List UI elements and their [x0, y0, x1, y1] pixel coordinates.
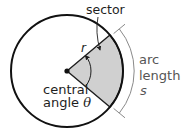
sector-label: sector: [86, 2, 126, 17]
sector-arc-length-diagram: sector r central angle θ arc length s: [0, 0, 186, 132]
arc-bracket-tick-bottom: [114, 108, 125, 117]
arc-length-label-line1: arc: [139, 52, 159, 67]
theta-symbol: θ: [83, 95, 91, 110]
central-angle-label-line2: angle θ: [43, 95, 91, 110]
arc-bracket-tick-top: [114, 24, 125, 33]
center-point: [64, 68, 69, 73]
angle-word: angle: [43, 95, 83, 110]
arc-length-label-line2: length: [139, 68, 180, 83]
radius-label: r: [81, 41, 87, 55]
arc-length-symbol: s: [140, 83, 147, 98]
